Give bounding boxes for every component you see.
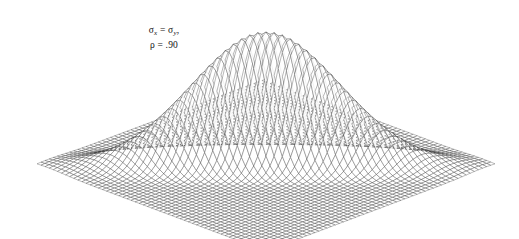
bivariate-normal-surface-plot (0, 0, 519, 239)
annotation-line-sigma: σx = σy, (116, 24, 212, 39)
rho-value: .90 (166, 40, 178, 50)
annotation-line-rho: ρ = .90 (116, 39, 212, 51)
parameter-annotation: σx = σy, ρ = .90 (116, 24, 212, 51)
rho-equals-sign: = (155, 40, 166, 50)
figure-container: σx = σy, ρ = .90 (0, 0, 519, 239)
sigma-line-comma: , (177, 25, 180, 35)
sigma-equals-sign: = (157, 25, 168, 35)
